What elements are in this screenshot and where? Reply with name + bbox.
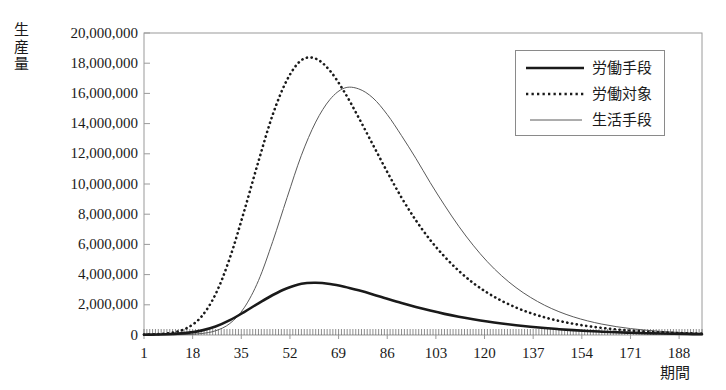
x-axis-tick-label: 137 <box>522 344 545 362</box>
y-axis-tick-label: 18,000,000 <box>10 56 138 71</box>
x-axis-tick-label: 154 <box>571 344 594 362</box>
x-axis-tick-label: 188 <box>668 344 691 362</box>
x-axis-tick-label: 86 <box>380 344 395 362</box>
y-axis-tick-label: 4,000,000 <box>10 267 138 282</box>
x-axis-tick-label: 35 <box>234 344 249 362</box>
y-axis-tick-labels: 02,000,0004,000,0006,000,0008,000,00010,… <box>0 0 138 390</box>
x-axis-title: 期間 <box>660 364 690 382</box>
legend-item-roudoushudan[interactable]: 労働手段 <box>516 55 664 81</box>
chart-figure: 生 産 量 02,000,0004,000,0006,000,0008,000,… <box>0 0 726 390</box>
x-axis-tick-label: 120 <box>473 344 496 362</box>
x-axis-tick-label: 52 <box>282 344 297 362</box>
legend: 労働手段 労働対象 生活手段 <box>515 50 665 136</box>
x-axis-tick-label: 171 <box>619 344 642 362</box>
y-axis-tick-label: 2,000,000 <box>10 297 138 312</box>
legend-item-seikatsushudan[interactable]: 生活手段 <box>516 107 664 133</box>
legend-key-thick-solid-icon <box>524 61 586 75</box>
y-axis-tick-label: 0 <box>10 328 138 343</box>
legend-label: 労働対象 <box>592 87 652 102</box>
legend-item-roudoutaishou[interactable]: 労働対象 <box>516 81 664 107</box>
y-axis-tick-label: 10,000,000 <box>10 177 138 192</box>
legend-label: 労働手段 <box>592 61 652 76</box>
x-axis-tick-label: 1 <box>140 344 148 362</box>
y-axis-tick-label: 12,000,000 <box>10 146 138 161</box>
y-axis-tick-label: 20,000,000 <box>10 26 138 41</box>
x-axis-tick-label: 103 <box>425 344 448 362</box>
y-axis-tick-label: 14,000,000 <box>10 116 138 131</box>
legend-key-thin-solid-icon <box>524 113 586 127</box>
legend-key-dotted-icon <box>524 87 586 101</box>
legend-label: 生活手段 <box>592 113 652 128</box>
x-axis-tick-label: 69 <box>331 344 346 362</box>
y-axis-tick-label: 6,000,000 <box>10 237 138 252</box>
y-axis-tick-label: 8,000,000 <box>10 207 138 222</box>
y-axis-tick-label: 16,000,000 <box>10 86 138 101</box>
x-axis-tick-labels: 11835526986103120137154171188 <box>0 344 726 368</box>
x-axis-tick-label: 18 <box>185 344 200 362</box>
